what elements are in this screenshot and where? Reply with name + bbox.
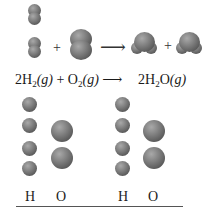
reaction-arrow-icon: ⟶: [102, 72, 122, 87]
hydrogen-label: H: [118, 190, 128, 204]
hydrogen-atom: [22, 97, 37, 112]
hydrogen-atom: [115, 118, 130, 133]
element-symbol: H: [145, 72, 155, 87]
oxygen-atom: [143, 147, 165, 169]
coefficient: 2: [15, 72, 22, 87]
element-symbol: O: [68, 72, 78, 87]
plus-sign: +: [53, 41, 61, 55]
hydrogen-atom: [22, 118, 37, 133]
state-label: (g): [37, 72, 53, 87]
plus-sign: +: [164, 39, 172, 53]
oxygen-atom: [70, 40, 92, 60]
hydrogen-atom: [115, 141, 130, 156]
oxygen-atom: [179, 32, 200, 52]
oxygen-atom: [51, 147, 73, 169]
state-label: (g): [170, 72, 186, 87]
element-symbol: O: [160, 72, 170, 87]
oxygen-atom: [134, 32, 155, 52]
element-symbol: H: [22, 72, 32, 87]
oxygen-atom: [143, 120, 165, 142]
coefficient: 2: [138, 72, 145, 87]
hydrogen-atom: [28, 45, 41, 58]
plus-sign: +: [56, 72, 64, 87]
hydrogen-atom: [115, 161, 130, 176]
reaction-arrow-icon: ⟶: [100, 38, 126, 56]
hydrogen-label: H: [25, 190, 35, 204]
oxygen-atom: [51, 120, 73, 142]
hydrogen-atom: [115, 97, 130, 112]
oxygen-label: O: [56, 190, 66, 204]
baseline-divider: [16, 206, 183, 207]
hydrogen-atom: [22, 141, 37, 156]
chemical-equation-products: 2H2O(g): [138, 72, 186, 92]
state-label: (g): [82, 72, 98, 87]
hydrogen-atom: [28, 12, 41, 25]
oxygen-label: O: [148, 190, 158, 204]
chemical-equation-reactants: 2H2(g) + O2(g) ⟶: [15, 72, 122, 92]
hydrogen-atom: [22, 161, 37, 176]
